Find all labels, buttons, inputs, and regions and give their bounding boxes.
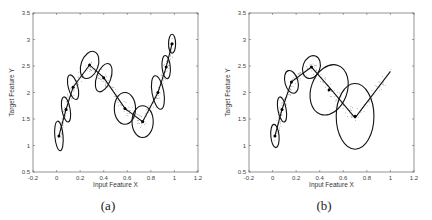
- caption-a: (a): [0, 198, 216, 214]
- component-center: [141, 120, 144, 123]
- component-center: [65, 108, 68, 111]
- x-tick-label: -0.2: [28, 175, 39, 181]
- y-tick-label: 3: [27, 37, 31, 43]
- y-tick-label: 1: [243, 143, 247, 149]
- plot-frame: [249, 13, 414, 172]
- y-axis-label: Target Feature Y: [224, 68, 232, 117]
- component-center: [57, 134, 60, 137]
- y-tick-label: 2.5: [238, 63, 247, 69]
- component-center: [328, 88, 331, 91]
- x-axis-label: Input Feature X: [93, 181, 138, 189]
- caption-b: (b): [216, 198, 432, 214]
- panel-b: -0.200.20.40.60.811.20.511.522.533.5Inpu…: [216, 0, 432, 220]
- x-axis-label: Input Feature X: [309, 181, 354, 189]
- x-tick-label: 0: [271, 175, 275, 181]
- x-tick-label: 0.8: [363, 175, 372, 181]
- y-tick-label: 1: [27, 143, 31, 149]
- y-tick-label: 2.5: [22, 63, 31, 69]
- component-center: [165, 66, 168, 69]
- x-tick-label: 1: [389, 175, 393, 181]
- x-tick-label: 1.2: [194, 175, 203, 181]
- y-tick-label: 0.5: [22, 169, 31, 175]
- y-tick-label: 2: [27, 90, 31, 96]
- scatter-points: [274, 64, 392, 141]
- x-tick-label: 0.2: [76, 175, 85, 181]
- component-center: [123, 107, 126, 110]
- x-tick-label: 0.8: [147, 175, 156, 181]
- component-center: [281, 108, 284, 111]
- component-center: [102, 76, 105, 79]
- component-center: [72, 86, 75, 89]
- chart-b: -0.200.20.40.60.811.20.511.522.533.5Inpu…: [216, 0, 432, 200]
- y-tick-label: 1.5: [22, 116, 31, 122]
- component-center: [310, 66, 313, 69]
- chart-a: -0.200.20.40.60.811.20.511.522.533.5Inpu…: [0, 0, 216, 200]
- y-tick-label: 3.5: [238, 10, 247, 16]
- regression-curve: [59, 44, 172, 136]
- scatter-points: [58, 38, 172, 137]
- y-tick-label: 1.5: [238, 116, 247, 122]
- x-tick-label: 0.2: [292, 175, 301, 181]
- component-center: [354, 115, 357, 118]
- x-tick-label: 1: [173, 175, 177, 181]
- component-center: [290, 80, 293, 83]
- y-tick-label: 0.5: [238, 169, 247, 175]
- component-center: [88, 63, 91, 66]
- component-center: [156, 91, 159, 94]
- component-center: [273, 134, 276, 137]
- panel-a: -0.200.20.40.60.811.20.511.522.533.5Inpu…: [0, 0, 216, 220]
- x-tick-label: 0: [55, 175, 59, 181]
- y-tick-label: 3: [243, 37, 247, 43]
- x-tick-label: -0.2: [244, 175, 255, 181]
- y-tick-label: 3.5: [22, 10, 31, 16]
- y-tick-label: 2: [243, 90, 247, 96]
- x-tick-label: 1.2: [410, 175, 419, 181]
- component-center: [171, 42, 174, 45]
- y-axis-label: Target Feature Y: [8, 68, 16, 117]
